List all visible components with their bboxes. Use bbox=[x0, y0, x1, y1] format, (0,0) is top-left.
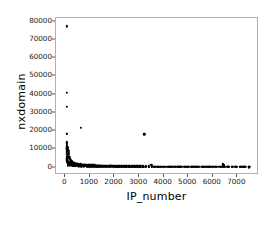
data-point bbox=[68, 163, 70, 165]
data-point bbox=[142, 165, 144, 167]
data-point bbox=[143, 166, 145, 168]
data-point bbox=[86, 164, 88, 166]
data-point bbox=[70, 162, 72, 164]
data-point bbox=[90, 164, 92, 166]
data-point bbox=[69, 159, 71, 161]
data-point bbox=[131, 165, 133, 167]
data-point bbox=[69, 160, 71, 162]
data-point bbox=[104, 165, 106, 167]
data-point bbox=[133, 165, 135, 167]
data-point bbox=[223, 166, 225, 168]
data-point bbox=[193, 166, 195, 168]
x-tick-mark bbox=[236, 174, 237, 177]
data-point bbox=[187, 166, 189, 168]
data-point bbox=[66, 160, 68, 162]
data-point bbox=[72, 164, 74, 166]
data-point bbox=[66, 153, 68, 155]
data-point bbox=[223, 164, 225, 166]
data-point bbox=[95, 165, 97, 167]
data-point bbox=[68, 164, 70, 166]
data-point bbox=[179, 165, 181, 167]
data-point bbox=[139, 165, 141, 167]
data-point bbox=[106, 165, 108, 167]
data-point bbox=[132, 166, 134, 168]
data-point bbox=[133, 165, 135, 167]
data-point bbox=[70, 164, 72, 166]
data-point bbox=[98, 165, 100, 167]
data-point bbox=[200, 166, 202, 168]
data-point bbox=[221, 163, 223, 165]
data-point bbox=[70, 164, 72, 166]
data-point bbox=[241, 166, 243, 168]
data-point bbox=[103, 165, 105, 167]
data-point bbox=[192, 166, 194, 168]
data-point bbox=[100, 165, 102, 167]
data-point bbox=[67, 157, 69, 159]
x-tick-label: 5000 bbox=[178, 178, 196, 185]
data-point bbox=[177, 166, 179, 168]
data-point bbox=[150, 164, 152, 166]
data-point bbox=[67, 155, 69, 157]
x-tick-mark bbox=[212, 174, 213, 177]
data-point bbox=[66, 149, 68, 151]
data-point bbox=[226, 166, 228, 168]
data-point bbox=[166, 165, 168, 167]
data-point bbox=[66, 145, 68, 147]
data-point bbox=[66, 141, 68, 143]
data-point bbox=[67, 162, 69, 164]
data-point bbox=[68, 163, 70, 165]
data-point bbox=[69, 162, 71, 164]
data-point bbox=[242, 166, 244, 168]
data-point bbox=[66, 152, 68, 154]
x-tick-label: 2000 bbox=[104, 178, 122, 185]
data-point bbox=[218, 166, 220, 168]
data-point bbox=[66, 147, 68, 149]
data-point bbox=[174, 166, 176, 168]
x-tick-mark bbox=[64, 174, 65, 177]
data-point bbox=[114, 165, 116, 167]
data-point bbox=[66, 162, 68, 164]
data-point bbox=[202, 166, 204, 168]
data-point bbox=[67, 150, 69, 152]
data-point bbox=[101, 165, 103, 167]
data-point bbox=[177, 166, 179, 168]
data-point bbox=[117, 165, 119, 167]
x-tick-label: 7000 bbox=[227, 178, 245, 185]
data-point bbox=[77, 165, 79, 167]
data-point bbox=[80, 165, 82, 167]
y-tick-label: 40000 bbox=[29, 90, 52, 97]
data-point bbox=[97, 164, 99, 166]
data-point bbox=[113, 165, 115, 167]
data-point bbox=[75, 165, 77, 167]
data-point bbox=[101, 165, 103, 167]
data-point bbox=[131, 165, 133, 167]
data-point bbox=[136, 165, 138, 167]
data-point bbox=[214, 166, 216, 168]
data-point bbox=[240, 166, 242, 168]
data-point bbox=[80, 165, 82, 167]
data-point bbox=[142, 166, 144, 168]
data-point bbox=[153, 166, 155, 168]
data-point bbox=[197, 166, 199, 168]
data-point bbox=[243, 166, 245, 168]
data-point bbox=[66, 133, 68, 135]
data-point bbox=[68, 152, 70, 154]
data-point bbox=[190, 166, 192, 168]
data-point bbox=[78, 163, 80, 165]
data-point bbox=[226, 166, 228, 168]
data-point bbox=[75, 163, 77, 165]
data-point bbox=[158, 166, 160, 168]
data-point bbox=[140, 166, 142, 168]
x-tick-label: 1000 bbox=[80, 178, 98, 185]
data-point bbox=[234, 166, 236, 168]
data-point bbox=[75, 164, 77, 166]
data-point bbox=[159, 165, 161, 167]
data-point bbox=[107, 165, 109, 167]
y-tick-label: 50000 bbox=[29, 72, 52, 79]
data-point bbox=[128, 165, 130, 167]
data-point bbox=[169, 165, 171, 167]
data-point bbox=[109, 165, 111, 167]
data-point bbox=[196, 166, 198, 168]
data-point bbox=[92, 165, 94, 167]
data-point bbox=[227, 166, 229, 168]
